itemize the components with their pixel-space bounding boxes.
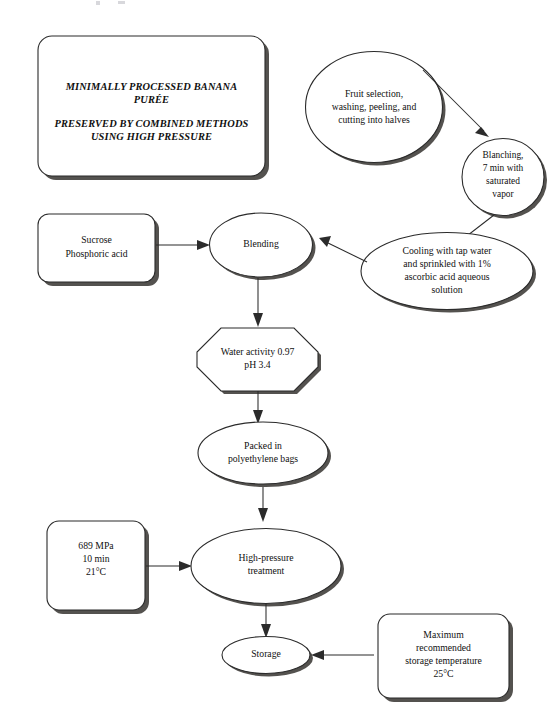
high-pressure-line-1: High-pressure — [239, 552, 294, 563]
node-cooling[interactable]: Cooling with tap water and sprinkled wit… — [361, 233, 536, 313]
edge-pressure-params-to-high-pressure — [146, 561, 192, 571]
additives-line-2: Phosphoric acid — [65, 248, 127, 259]
edge-blending-to-water-activity — [253, 278, 263, 327]
edge-cooling-to-blending-arrowhead — [319, 236, 331, 247]
packed-line-1: Packed in — [244, 440, 282, 451]
edge-packed-to-high-pressure — [258, 487, 268, 522]
title-box-line-3: PRESERVED BY COMBINED METHODS — [54, 118, 248, 129]
edge-storage-temp-to-storage — [311, 650, 374, 660]
packed-line-2: polyethylene bags — [228, 453, 298, 464]
additives-line-1: Sucrose — [81, 234, 112, 245]
node-high-pressure[interactable]: High-pressure treatment — [191, 529, 344, 607]
storage-temp-line-4: 25°C — [433, 668, 453, 679]
pressure-params-line-3: 21°C — [86, 566, 106, 577]
fruit-selection-line-2: washing, peeling, and — [332, 101, 417, 112]
flowchart-canvas: MINIMALLY PROCESSED BANANA PURÉE PRESERV… — [0, 0, 557, 726]
node-fruit-selection[interactable]: Fruit selection, washing, peeling, and c… — [306, 52, 446, 166]
flowchart-svg: MINIMALLY PROCESSED BANANA PURÉE PRESERV… — [0, 0, 557, 726]
cooling-line-1: Cooling with tap water — [402, 245, 492, 256]
storage-temp-line-2: recommended — [416, 642, 471, 653]
node-blanching[interactable]: Blanching, 7 min with saturated vapor — [462, 139, 547, 219]
blanching-line-4: vapor — [492, 189, 514, 199]
storage-temp-line-1: Maximum — [423, 629, 464, 640]
edge-pressure-params-to-high-pressure-arrowhead — [179, 561, 192, 571]
node-title-box[interactable]: MINIMALLY PROCESSED BANANA PURÉE PRESERV… — [38, 36, 269, 180]
node-blending[interactable]: Blending — [210, 213, 316, 280]
water-activity-line-1: Water activity 0.97 — [221, 346, 295, 357]
edge-cooling-to-blending — [319, 236, 367, 262]
node-storage-temp[interactable]: Maximum recommended storage temperature … — [378, 614, 513, 702]
title-box-line-1: MINIMALLY PROCESSED BANANA — [65, 81, 238, 92]
title-box-outline — [38, 36, 265, 176]
node-additives[interactable]: Sucrose Phosphoric acid — [38, 214, 159, 286]
node-packed[interactable]: Packed in polyethylene bags — [198, 422, 331, 487]
storage-temp-line-3: storage temperature — [405, 655, 482, 666]
scan-speck — [118, 1, 125, 4]
water-activity-line-2: pH 3.4 — [244, 359, 271, 370]
edge-packed-to-high-pressure-arrowhead — [258, 508, 268, 522]
cooling-line-2: and sprinkled with 1% — [403, 258, 490, 269]
cooling-line-3: ascorbic acid aqueous — [405, 271, 490, 282]
blanching-line-2: 7 min with — [483, 163, 524, 173]
blending-label: Blending — [243, 238, 279, 249]
blanching-line-1: Blanching, — [483, 150, 524, 160]
node-water-activity[interactable]: Water activity 0.97 pH 3.4 — [197, 328, 321, 394]
cooling-line-4: solution — [431, 284, 462, 295]
node-storage[interactable]: Storage — [222, 637, 313, 677]
node-pressure-params[interactable]: 689 MPa 10 min 21°C — [47, 521, 149, 614]
high-pressure-line-2: treatment — [248, 565, 285, 576]
edge-additives-to-blending-arrowhead — [197, 240, 210, 250]
edge-blending-to-water-activity-arrowhead — [253, 313, 263, 327]
edge-additives-to-blending — [156, 240, 210, 250]
fruit-selection-line-3: cutting into halves — [338, 114, 410, 125]
edge-fruit-to-blanching-arrowhead — [475, 127, 489, 137]
edge-cooling-to-blending-line — [326, 242, 367, 262]
edge-high-pressure-to-storage — [261, 604, 271, 638]
pressure-params-line-1: 689 MPa — [78, 540, 114, 551]
title-box-line-4: USING HIGH PRESSURE — [91, 131, 212, 142]
edge-water-activity-to-packed — [253, 391, 263, 424]
scan-speck — [96, 1, 100, 5]
blanching-line-3: saturated — [486, 176, 520, 186]
pressure-params-line-2: 10 min — [82, 553, 109, 564]
title-box-line-2: PURÉE — [134, 94, 169, 105]
fruit-selection-line-1: Fruit selection, — [345, 88, 403, 99]
edge-high-pressure-to-storage-arrowhead — [261, 624, 271, 638]
storage-label: Storage — [251, 648, 281, 659]
